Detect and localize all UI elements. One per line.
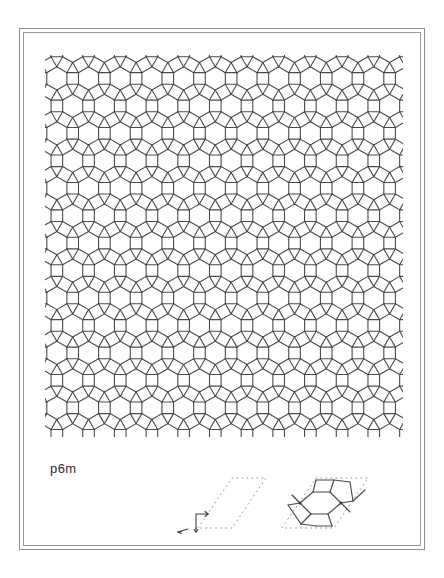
motif-svg <box>272 470 380 540</box>
motif-cell-outline <box>282 478 368 528</box>
unit-cell-rhombus-outline <box>198 478 266 528</box>
tiling-svg <box>45 55 403 437</box>
motif-vertices <box>299 502 343 505</box>
translation-arrow <box>178 529 188 534</box>
tiling-pattern-plate <box>45 55 403 437</box>
unit-cell-svg <box>172 470 276 540</box>
corner-axes-marker <box>194 512 208 533</box>
wallpaper-group-label: p6m <box>50 461 77 476</box>
motif-diagram <box>272 470 380 540</box>
unit-cell-diagram <box>172 470 276 540</box>
